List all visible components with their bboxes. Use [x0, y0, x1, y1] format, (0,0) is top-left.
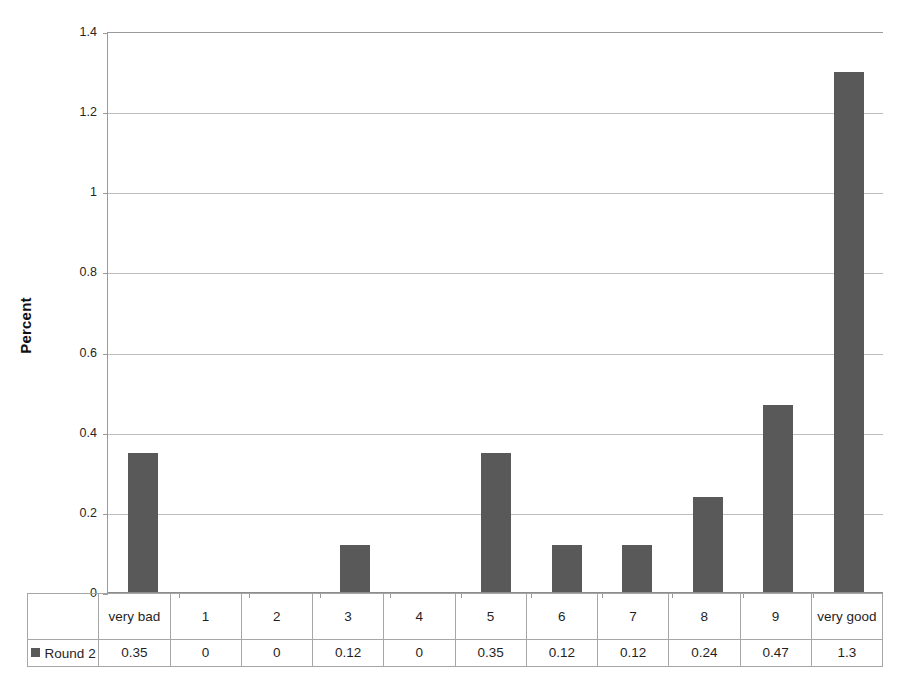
bar — [552, 545, 582, 592]
table-category-label: 1 — [171, 609, 241, 625]
y-axis-tick — [103, 273, 108, 274]
table-category-cell: 9 — [740, 594, 811, 640]
bar — [693, 497, 723, 592]
bar — [128, 453, 158, 592]
table-value-cell: 0 — [384, 640, 455, 667]
gridline — [108, 273, 883, 274]
table-category-cell: 8 — [669, 594, 740, 640]
table-category-label: very good — [812, 609, 882, 625]
table-value-cell: 0.35 — [99, 640, 170, 667]
table-row-values: Round 2 0.35000.1200.350.120.120.240.471… — [28, 640, 883, 667]
table-category-label: 4 — [384, 609, 454, 625]
data-table: very bad123456789very good Round 2 0.350… — [27, 593, 883, 667]
plot-area — [107, 32, 883, 593]
y-axis-tick-label: 1.2 — [49, 105, 97, 119]
table-category-cell: 5 — [455, 594, 526, 640]
table-value-cell: 0.12 — [526, 640, 597, 667]
table-row-categories: very bad123456789very good — [28, 594, 883, 640]
table-category-cell: 6 — [526, 594, 597, 640]
table-category-label: 8 — [669, 609, 739, 625]
legend-swatch-icon — [31, 648, 40, 657]
bar-chart: Percent 00.20.40.60.811.21.4 very bad123… — [0, 0, 910, 693]
table-category-label: 6 — [527, 609, 597, 625]
legend-series-label: Round 2 — [45, 646, 96, 662]
table-category-label: 2 — [242, 609, 312, 625]
table-value-cell: 0.35 — [455, 640, 526, 667]
table-category-cell: 7 — [598, 594, 669, 640]
y-axis-tick — [103, 434, 108, 435]
bar — [340, 545, 370, 592]
y-axis-tick-label: 1 — [49, 185, 97, 199]
bar — [763, 405, 793, 592]
bar — [481, 453, 511, 592]
y-axis-tick — [103, 33, 108, 34]
table-value-cell: 1.3 — [811, 640, 882, 667]
table-category-label: 5 — [456, 609, 526, 625]
table-category-label: 7 — [598, 609, 668, 625]
y-axis-tick — [103, 193, 108, 194]
table-category-cell: very bad — [99, 594, 170, 640]
y-axis-tick-label: 0.6 — [49, 346, 97, 360]
legend-cell: Round 2 — [28, 640, 99, 667]
gridline — [108, 113, 883, 114]
bar — [622, 545, 652, 592]
y-axis-tick-labels: 00.20.40.60.811.21.4 — [48, 0, 103, 693]
table-value-cell: 0.47 — [740, 640, 811, 667]
y-axis-tick-label: 0.4 — [49, 426, 97, 440]
y-axis-tick-label: 0.2 — [49, 506, 97, 520]
table-value-cell: 0.12 — [313, 640, 384, 667]
table-category-cell: very good — [811, 594, 882, 640]
gridline — [108, 354, 883, 355]
y-axis-tick — [103, 514, 108, 515]
legend-blank-cell — [28, 594, 99, 640]
bar — [834, 72, 864, 592]
table-value-cell: 0 — [170, 640, 241, 667]
table-category-cell: 2 — [241, 594, 312, 640]
y-axis-title: Percent — [0, 250, 50, 400]
y-axis-tick — [103, 354, 108, 355]
table-value-cell: 0.24 — [669, 640, 740, 667]
table-category-label: very bad — [99, 609, 169, 625]
gridline — [108, 193, 883, 194]
table-category-cell: 1 — [170, 594, 241, 640]
y-axis-tick-label: 0.8 — [49, 265, 97, 279]
table-category-label: 3 — [313, 609, 383, 625]
table-category-label: 9 — [741, 609, 811, 625]
table-category-cell: 3 — [313, 594, 384, 640]
table-value-cell: 0 — [241, 640, 312, 667]
y-axis-title-text: Percent — [17, 297, 34, 353]
y-axis-tick — [103, 113, 108, 114]
table-value-cell: 0.12 — [598, 640, 669, 667]
table-category-cell: 4 — [384, 594, 455, 640]
y-axis-tick-label: 1.4 — [49, 25, 97, 39]
